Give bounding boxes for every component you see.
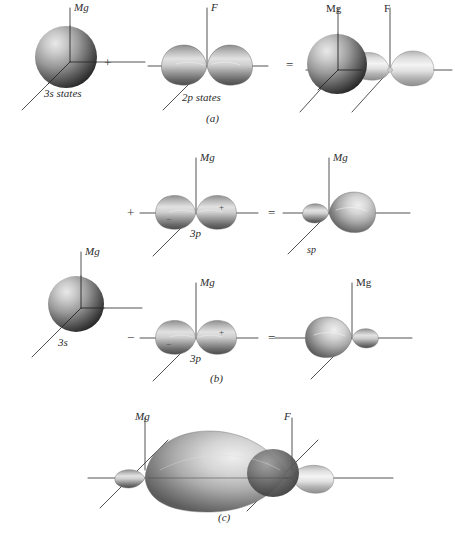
panel-b-row2-3p-caption: 3p [190, 353, 201, 364]
sp-small-lobe [303, 204, 329, 223]
panel-b-row2-lobe-sign-right: + [219, 328, 224, 337]
panel-b-row2-lobe-sign-left: − [166, 340, 171, 349]
panel-a-plus-operator: + [104, 56, 111, 69]
panel-c-group [88, 418, 393, 512]
panel-b-row2-operator: − [127, 331, 134, 344]
panel-c-axis-label-mg: Mg [135, 411, 150, 422]
panel-a-combined-axis-label-mg: Mg [326, 3, 341, 14]
panel-b-3s-sphere-group [32, 252, 142, 357]
panel-b-row1-sp-caption: sp [307, 245, 316, 255]
panel-b-row1-3p-group [140, 158, 258, 256]
panel-a-3s-caption: 3s states [44, 88, 82, 99]
panel-a-2p-caption-text: 2p states [182, 91, 221, 103]
panel-b-row1-3p-caption: 3p [190, 228, 201, 239]
panel-b-row2-equals: = [268, 331, 275, 344]
panel-b-3s-axis-label: Mg [85, 246, 100, 257]
3p-lobe-left [155, 320, 196, 354]
panel-b-row1-lobe-sign-left: − [166, 215, 171, 224]
bonding-orbital-back-lobe [115, 470, 145, 488]
panel-b-row2-sp-axis-label: Mg [356, 277, 371, 288]
panel-b-row2-sp-group [275, 283, 412, 379]
combined-sphere-body [307, 34, 367, 94]
panel-a-2p-axis-label: F [211, 2, 218, 13]
panel-b-row1-3p-axis-label: Mg [200, 152, 215, 163]
panel-a-3s-caption-text: 3s states [44, 87, 82, 99]
panel-c-caption: (c) [218, 512, 230, 523]
panel-b-row1-sp-axis-label: Mg [333, 152, 348, 163]
panel-b-row1-sp-group [283, 158, 410, 254]
panel-b-3s-caption: 3s [58, 337, 68, 348]
panel-a-3s-axis-label: Mg [74, 2, 89, 13]
sp-large-lobe [329, 192, 376, 233]
panel-a-equals-operator: = [286, 58, 293, 71]
orbital-hybridization-figure [0, 0, 455, 536]
panel-a-combined-axis-label-f: F [384, 3, 390, 14]
panel-b-row1-operator: + [127, 206, 134, 219]
combined-node [388, 68, 393, 73]
combined-lobe-right [390, 51, 434, 86]
3s-sphere-body [35, 26, 97, 88]
panel-a-3s-sphere-group [22, 8, 145, 110]
sp-large-lobe [305, 317, 352, 358]
panel-b-row2-3p-group [140, 283, 258, 381]
fluorine-core-blob [247, 449, 299, 497]
panel-a-caption: (a) [206, 113, 219, 124]
panel-a-combined-group [300, 8, 452, 112]
3p-lobe-right [196, 195, 237, 229]
3s-sphere-body [48, 276, 104, 332]
panel-b-row2-3p-axis-label: Mg [200, 277, 215, 288]
sp-small-lobe [352, 329, 378, 348]
3p-lobe-left [155, 195, 196, 229]
panel-b-caption: (b) [210, 373, 223, 384]
3p-lobe-right [196, 320, 237, 354]
panel-a-2p-caption: 2p states [182, 92, 221, 103]
panel-b-row1-lobe-sign-right: + [219, 203, 224, 212]
panel-b-row1-equals: = [268, 206, 275, 219]
panel-c-axis-label-f: F [284, 411, 291, 422]
2p-lobe-left [161, 45, 207, 85]
2p-lobe-right [207, 45, 253, 85]
